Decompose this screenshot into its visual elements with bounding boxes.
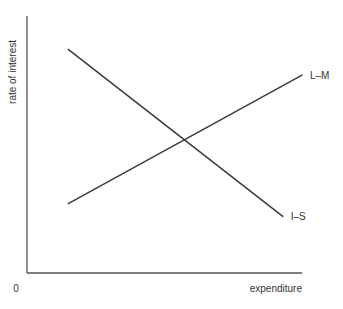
is-lm-diagram: rate of interest expenditure 0 I–S L–M: [0, 0, 343, 309]
x-axis-label: expenditure: [250, 283, 303, 294]
lm-curve: [68, 75, 302, 204]
is-curve-label: I–S: [291, 211, 306, 222]
y-axis-label: rate of interest: [7, 40, 18, 104]
lm-curve-label: L–M: [310, 70, 329, 81]
is-curve: [68, 49, 283, 216]
origin-label: 0: [13, 283, 19, 294]
